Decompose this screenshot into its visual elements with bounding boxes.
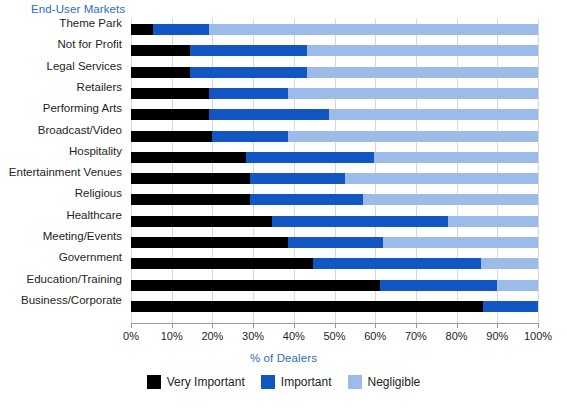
x-tick-label: 90% (477, 330, 517, 342)
legend-swatch-icon (261, 375, 275, 389)
bar-row (131, 152, 538, 163)
bar-segment-important (288, 237, 383, 248)
category-label: Performing Arts (0, 102, 122, 114)
x-tick-50 (335, 323, 336, 328)
bar-segment-very-important (131, 88, 209, 99)
gridline-0 (131, 19, 132, 323)
category-label: Broadcast/Video (0, 124, 122, 136)
bar-row (131, 216, 538, 227)
plot-area (131, 19, 538, 323)
bar-segment-very-important (131, 109, 209, 120)
legend-swatch-icon (348, 375, 362, 389)
category-label: Legal Services (0, 60, 122, 72)
x-tick-label: 60% (355, 330, 395, 342)
category-label: Healthcare (0, 209, 122, 221)
bar-row (131, 131, 538, 142)
gridline-70 (416, 19, 417, 323)
x-tick-label: 50% (315, 330, 355, 342)
bar-segment-negligible (481, 258, 538, 269)
bar-segment-negligible (345, 173, 538, 184)
bar-segment-very-important (131, 216, 272, 227)
category-label: Not for Profit (0, 38, 122, 50)
bar-segment-important (153, 24, 210, 35)
gridline-10 (172, 19, 173, 323)
bar-segment-negligible (363, 194, 538, 205)
legend-item: Negligible (348, 375, 421, 389)
x-tick-label: 40% (274, 330, 314, 342)
gridline-60 (375, 19, 376, 323)
category-label: Theme Park (0, 17, 122, 29)
category-label: Entertainment Venues (0, 166, 122, 178)
category-label: Education/Training (0, 273, 122, 285)
bar-segment-important (483, 301, 538, 312)
bar-segment-important (380, 280, 497, 291)
x-tick-100 (538, 323, 539, 328)
bar-row (131, 88, 538, 99)
bar-segment-negligible (307, 67, 538, 78)
bar-row (131, 24, 538, 35)
category-label: Religious (0, 187, 122, 199)
bar-segment-very-important (131, 194, 250, 205)
bar-row (131, 301, 538, 312)
bar-segment-negligible (497, 280, 538, 291)
x-tick-80 (457, 323, 458, 328)
x-tick-label: 20% (192, 330, 232, 342)
x-tick-label: 10% (152, 330, 192, 342)
bar-segment-important (190, 45, 307, 56)
bar-segment-important (250, 194, 363, 205)
bar-segment-very-important (131, 67, 190, 78)
bar-segment-negligible (307, 45, 538, 56)
bar-segment-negligible (329, 109, 538, 120)
bar-segment-very-important (131, 173, 250, 184)
gridline-20 (212, 19, 213, 323)
gridline-100 (538, 19, 539, 323)
bar-segment-important (212, 131, 288, 142)
gridline-30 (253, 19, 254, 323)
bar-segment-important (209, 109, 329, 120)
bar-segment-important (190, 67, 307, 78)
legend-label: Very Important (167, 375, 245, 389)
x-tick-label: 80% (437, 330, 477, 342)
legend-swatch-icon (147, 375, 161, 389)
category-label: Retailers (0, 81, 122, 93)
gridline-40 (294, 19, 295, 323)
legend-label: Important (281, 375, 332, 389)
x-tick-60 (375, 323, 376, 328)
category-label-list: Theme ParkNot for ProfitLegal ServicesRe… (0, 0, 126, 304)
x-tick-30 (253, 323, 254, 328)
legend-item: Very Important (147, 375, 245, 389)
x-tick-label: 100% (518, 330, 558, 342)
legend-label: Negligible (368, 375, 421, 389)
bar-segment-important (246, 152, 374, 163)
bar-row (131, 258, 538, 269)
category-label: Meeting/Events (0, 230, 122, 242)
legend-item: Important (261, 375, 332, 389)
gridline-90 (497, 19, 498, 323)
bar-row (131, 194, 538, 205)
bar-segment-important (313, 258, 481, 269)
bar-segment-negligible (209, 24, 538, 35)
x-tick-0 (131, 323, 132, 328)
bar-segment-very-important (131, 131, 212, 142)
bar-segment-important (272, 216, 448, 227)
bar-row (131, 173, 538, 184)
bar-row (131, 45, 538, 56)
bar-segment-negligible (288, 88, 538, 99)
bar-segment-very-important (131, 45, 190, 56)
x-tick-90 (497, 323, 498, 328)
bar-segment-very-important (131, 24, 153, 35)
bar-segment-very-important (131, 280, 380, 291)
bar-segment-very-important (131, 237, 288, 248)
bar-row (131, 109, 538, 120)
x-tick-label: 70% (396, 330, 436, 342)
chart-legend: Very ImportantImportantNegligible (0, 375, 567, 389)
bar-segment-negligible (448, 216, 538, 227)
bar-segment-important (250, 173, 345, 184)
bar-segment-important (209, 88, 288, 99)
category-label: Hospitality (0, 145, 122, 157)
category-label: Government (0, 251, 122, 263)
bar-segment-very-important (131, 152, 246, 163)
bar-row (131, 67, 538, 78)
x-tick-40 (294, 323, 295, 328)
x-tick-label: 0% (111, 330, 151, 342)
